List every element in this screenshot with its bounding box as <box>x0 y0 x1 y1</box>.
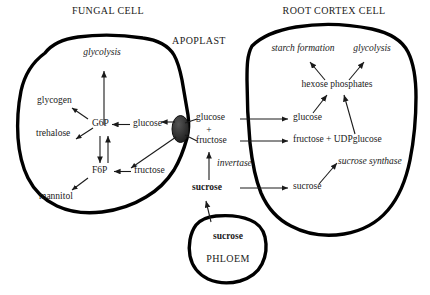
label-fungal-glycolysis: glycolysis <box>83 48 120 58</box>
label-starch-formation: starch formation <box>271 44 334 54</box>
heading-apoplast: APOPLAST <box>172 36 226 46</box>
label-fungal-fructose: fructose <box>134 166 165 176</box>
arrow-transporter-to-fungal-fructose <box>131 137 176 168</box>
label-fungal-glucose: glucose <box>133 119 162 129</box>
heading-fungal-cell: FUNGAL CELL <box>72 6 144 16</box>
label-phloem-sucrose: sucrose <box>213 232 243 242</box>
label-root-sucrose: sucrose <box>293 182 322 192</box>
phloem-cell-membrane <box>189 216 266 283</box>
label-hexose-phosphates: hexose phosphates <box>302 80 373 90</box>
label-glycogen: glycogen <box>37 96 72 106</box>
label-mannitol: mannitol <box>39 192 73 202</box>
arrow-g6p-to-glycogen <box>72 108 88 119</box>
label-invertase: invertase <box>217 159 252 169</box>
label-root-glucose: glucose <box>293 113 322 123</box>
label-f6p: F6P <box>92 166 107 176</box>
label-g6p: G6P <box>92 119 109 129</box>
label-trehalose: trehalose <box>36 129 70 139</box>
heading-root-cortex-cell: ROOT CORTEX CELL <box>283 6 386 16</box>
label-sucrose-synthase: sucrose synthase <box>338 157 402 167</box>
arrow-sucrose-to-sucrose-synthase <box>319 163 337 184</box>
root-cortex-cell-membrane <box>247 25 416 236</box>
label-apoplast-fructose: fructose <box>196 136 227 146</box>
arrow-glucose-to-hexose-p <box>313 95 327 113</box>
arrow-f6p-to-mannitol <box>72 178 88 190</box>
arrow-hexose-p-to-glycolysis <box>349 62 364 80</box>
arrow-g6p-to-trehalose <box>76 128 93 139</box>
label-apoplast-sucrose: sucrose <box>192 183 222 193</box>
diagram-canvas: FUNGAL CELL APOPLAST ROOT CORTEX CELL gl… <box>0 0 430 295</box>
label-root-fructose-udpglucose: fructose + UDPglucose <box>293 135 382 145</box>
label-apoplast-glucose: glucose <box>196 113 225 123</box>
label-phloem-name: PHLOEM <box>206 254 250 264</box>
label-root-glycolysis: glycolysis <box>353 44 390 54</box>
arrow-fructose-udpglucose-to-hexose-p <box>344 95 355 134</box>
arrow-hexose-p-to-starch <box>310 62 325 80</box>
